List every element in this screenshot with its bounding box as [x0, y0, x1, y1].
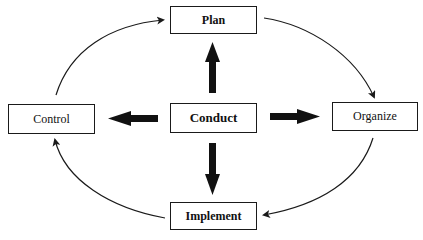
node-control-label: Control	[33, 112, 70, 127]
node-organize: Organize	[332, 102, 418, 131]
curved-arrow-implement-to-control	[55, 140, 165, 218]
node-conduct: Conduct	[170, 103, 257, 133]
node-plan-label: Plan	[202, 13, 225, 28]
curved-arrow-plan-to-organize	[264, 18, 374, 97]
node-control: Control	[8, 104, 95, 134]
thick-arrow-left-to-control	[108, 111, 158, 126]
node-plan: Plan	[170, 6, 257, 34]
curved-arrow-control-to-plan	[56, 20, 163, 95]
management-cycle-diagram: Plan Conduct Control Organize Implement	[0, 0, 423, 240]
node-implement: Implement	[170, 202, 257, 230]
thick-arrow-up-to-plan	[205, 42, 220, 93]
thick-arrow-right-to-organize	[270, 109, 320, 124]
node-conduct-label: Conduct	[190, 110, 238, 126]
curved-arrow-organize-to-implement	[264, 138, 373, 215]
thick-arrow-down-to-implement	[205, 143, 220, 195]
node-implement-label: Implement	[186, 209, 242, 224]
node-organize-label: Organize	[353, 109, 397, 124]
